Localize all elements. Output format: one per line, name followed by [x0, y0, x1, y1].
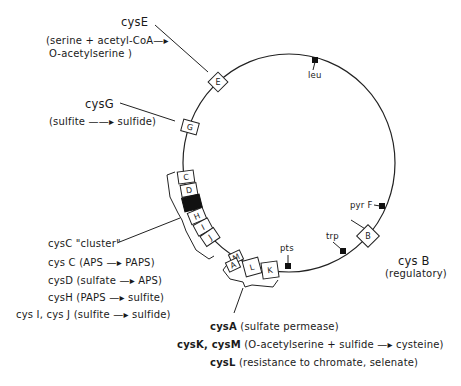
cysE-desc-line1: (serine + acetyl-CoA—▸	[46, 35, 169, 46]
cysA-group-leader	[234, 288, 243, 313]
cluster-boxes: C D H I J	[177, 170, 220, 247]
cysKM-name: cysK, cysM	[177, 339, 241, 350]
svg-text:B: B	[365, 232, 371, 241]
cysE-name: cysE	[121, 15, 148, 29]
cluster-title: cysC "cluster"	[48, 238, 121, 249]
cysA-group-boxes: M A L K	[225, 250, 279, 279]
cysG-name: cysG	[85, 97, 114, 111]
cluster-item: cys C (APS —▸ PAPS)	[48, 257, 155, 268]
svg-text:E: E	[215, 78, 220, 87]
cluster-item: cysH (PAPS —▸ sulfite)	[48, 292, 164, 303]
cluster-leader	[117, 218, 180, 243]
cluster-item: cys I, cys J (sulfite —▸ sulfide)	[16, 309, 171, 320]
pyrF-label: pyr F	[350, 200, 373, 210]
gene-box-G: G	[181, 119, 200, 135]
pts-marker	[285, 263, 291, 269]
cysA-row: cysA (sulfate permease)	[210, 321, 339, 332]
cysE-desc-line2: O-acetylserine )	[49, 48, 132, 59]
cysKM-row: cysK, cysM (O-acetylserine + sulfide —▸ …	[177, 339, 444, 350]
cysA-name: cysA	[210, 321, 237, 332]
cysB-name: cys B	[398, 254, 430, 268]
pts-label: pts	[280, 243, 294, 253]
trp-label: trp	[326, 231, 339, 241]
cysA-desc: (sulfate permease)	[240, 321, 338, 332]
leu-label: leu	[308, 70, 322, 80]
cysKM-desc: (O-acetylserine + sulfide —▸ cysteine)	[244, 339, 444, 350]
cluster-item: cysD (sulfate —▸ APS)	[48, 275, 162, 286]
cysG-desc: (sulfite ——▸ sulfide)	[49, 116, 156, 127]
cysL-row: cysL (resistance to chromate, selenate)	[210, 357, 418, 368]
cysB-desc: (regulatory)	[385, 268, 447, 279]
cysL-name: cysL	[210, 357, 236, 368]
cysL-desc: (resistance to chromate, selenate)	[239, 357, 418, 368]
cysE-leader	[155, 25, 208, 72]
